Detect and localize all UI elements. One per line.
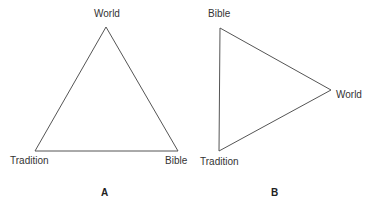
label-a-world: World	[94, 8, 120, 20]
label-b-bible: Bible	[208, 8, 230, 20]
label-b-world: World	[336, 89, 362, 101]
triangle-a	[35, 27, 178, 151]
caption-b: B	[271, 187, 278, 198]
caption-a: A	[101, 187, 108, 198]
label-a-tradition: Tradition	[10, 155, 49, 167]
triangle-diagrams	[0, 0, 369, 207]
label-a-bible: Bible	[165, 155, 187, 167]
label-b-tradition: Tradition	[200, 156, 239, 168]
triangle-b	[219, 28, 331, 151]
